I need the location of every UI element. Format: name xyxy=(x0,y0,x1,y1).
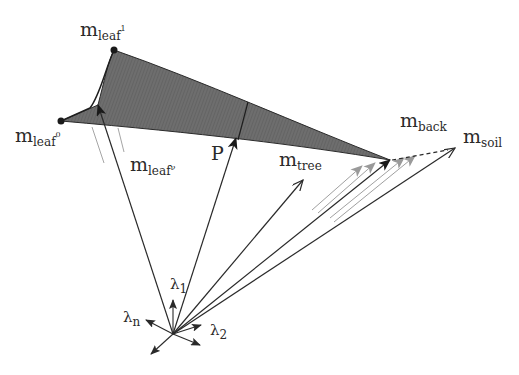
label-tree: mtree xyxy=(279,148,322,173)
vector-p xyxy=(173,138,236,334)
label-lambda2: λ2 xyxy=(210,321,227,342)
spectral-mixing-diagram: mleaf1 mleaf0 mleafν P mtree mback msoil… xyxy=(0,0,519,375)
label-lambdan: λn xyxy=(123,308,141,329)
leaf-motion-lines xyxy=(92,127,124,163)
leaf1-point xyxy=(111,47,118,54)
back-motion-arrows xyxy=(312,156,415,222)
label-p: P xyxy=(211,142,224,164)
label-back: mback xyxy=(400,109,448,134)
vector-soil xyxy=(173,148,455,334)
label-soil: msoil xyxy=(463,125,502,150)
lambda-axes xyxy=(146,300,201,354)
vector-leaf-v xyxy=(98,105,173,334)
label-leaf1: mleaf1 xyxy=(80,18,126,43)
leaf0-point xyxy=(58,118,65,125)
vector-back xyxy=(173,160,390,334)
label-leaf-v: mleafν xyxy=(130,153,176,178)
vector-tree xyxy=(173,180,303,334)
label-lambda1: λ1 xyxy=(170,275,187,296)
label-leaf0: mleaf0 xyxy=(15,124,61,149)
